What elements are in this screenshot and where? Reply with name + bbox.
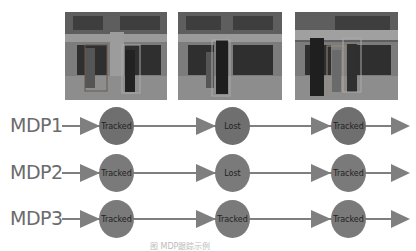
street-scene-image (295, 12, 398, 100)
street-scene-image (65, 12, 167, 100)
figure-caption: 图 MDP跟踪示例 (150, 240, 210, 251)
video-frame-3 (295, 12, 398, 100)
video-frame-1 (65, 12, 167, 100)
state-label: Tracked (217, 215, 248, 224)
state-label: Tracked (101, 215, 132, 224)
video-frame-2 (178, 12, 282, 100)
mdp-row-2: MDP2 Tracked Lost Tracked (0, 153, 416, 193)
mdp-row-1: MDP1 Tracked Lost Tracked (0, 106, 416, 146)
state-node: Tracked (331, 107, 366, 145)
state-label: Lost (224, 122, 241, 131)
state-label: Tracked (333, 122, 364, 131)
state-node: Tracked (331, 154, 366, 192)
state-label: Tracked (333, 215, 364, 224)
street-scene-image (178, 12, 282, 100)
state-node: Tracked (99, 154, 134, 192)
state-label: Lost (224, 169, 241, 178)
state-node: Tracked (331, 200, 366, 238)
state-node: Tracked (99, 200, 134, 238)
state-node: Tracked (99, 107, 134, 145)
state-label: Tracked (101, 169, 132, 178)
state-node: Lost (215, 107, 250, 145)
state-label: Tracked (333, 169, 364, 178)
state-node: Lost (215, 154, 250, 192)
state-label: Tracked (101, 122, 132, 131)
mdp-row-3: MDP3 Tracked Tracked Tracked (0, 199, 416, 239)
state-node: Tracked (215, 200, 250, 238)
